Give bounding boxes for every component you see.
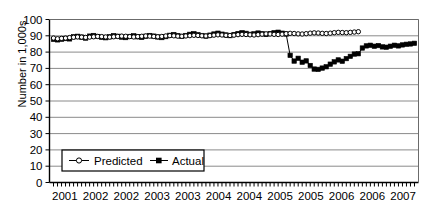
svg-text:2002: 2002: [83, 190, 109, 202]
svg-text:80: 80: [30, 46, 43, 58]
svg-text:30: 30: [30, 128, 43, 140]
svg-text:10: 10: [30, 160, 43, 172]
svg-text:20: 20: [30, 144, 43, 156]
chart-container: Number in 1,000s 0102030405060708090100 …: [0, 0, 435, 211]
svg-text:40: 40: [30, 111, 43, 123]
svg-text:2003: 2003: [175, 190, 201, 202]
chart-legend: PredictedActual: [62, 150, 204, 171]
svg-text:50: 50: [30, 95, 43, 107]
svg-text:2003: 2003: [144, 190, 170, 202]
svg-text:0: 0: [36, 177, 42, 189]
svg-text:90: 90: [30, 30, 43, 42]
series-predicted: [51, 30, 360, 41]
gridlines: [50, 20, 419, 167]
svg-text:100: 100: [23, 14, 42, 26]
svg-text:Predicted: Predicted: [94, 155, 143, 167]
svg-text:2001: 2001: [52, 190, 78, 202]
svg-text:2007: 2007: [390, 190, 416, 202]
svg-text:2005: 2005: [298, 190, 324, 202]
x-axis-tick-labels: 2001200220022003200320042004200520052006…: [52, 190, 416, 202]
line-chart: 0102030405060708090100 20012002200220032…: [0, 0, 435, 211]
y-axis-tick-labels: 0102030405060708090100: [23, 14, 49, 189]
svg-text:2005: 2005: [267, 190, 293, 202]
svg-text:70: 70: [30, 62, 43, 74]
svg-text:2004: 2004: [237, 190, 263, 202]
svg-text:2006: 2006: [329, 190, 355, 202]
svg-text:2004: 2004: [206, 190, 232, 202]
svg-text:2002: 2002: [114, 190, 140, 202]
svg-text:60: 60: [30, 79, 43, 91]
svg-text:Actual: Actual: [172, 155, 204, 167]
svg-text:2006: 2006: [360, 190, 386, 202]
